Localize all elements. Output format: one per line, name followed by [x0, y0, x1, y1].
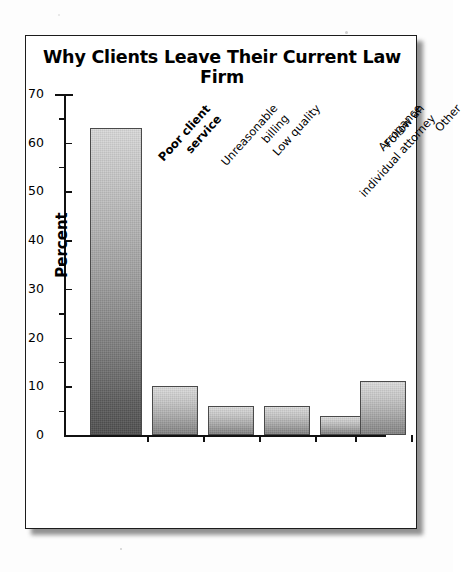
y-tick-label-50: 50 [4, 183, 44, 198]
y-axis-title: Percent [53, 185, 71, 305]
y-minor-tick-15 [59, 362, 64, 363]
chart-title: Why Clients Leave Their Current Law Firm [26, 47, 418, 87]
y-tick-label-30: 30 [4, 281, 44, 296]
bar-low-quality[interactable] [208, 406, 254, 435]
x-axis-line [64, 435, 386, 437]
bar-follow-an-individual-attorney[interactable] [264, 406, 310, 435]
x-tick-5 [355, 435, 357, 442]
y-minor-tick-65 [59, 118, 64, 119]
bar-poor-client-service[interactable] [90, 128, 142, 435]
y-tick-label-20: 20 [4, 330, 44, 345]
x-tick-4 [315, 435, 317, 442]
plot-area: 70 60 50 40 30 20 10 0 Percent [64, 94, 386, 435]
x-label-poor-client-service: Poor client service [155, 102, 225, 175]
y-tick-label-0: 0 [4, 427, 44, 442]
y-tick-10 [64, 386, 72, 388]
y-axis-top-cap [64, 94, 73, 96]
chart-figure-frame: Why Clients Leave Their Current Law Firm… [25, 35, 417, 529]
y-minor-tick-55 [59, 167, 64, 168]
bar-unreasonable-billing[interactable] [152, 386, 198, 435]
y-tick-label-10: 10 [4, 378, 44, 393]
x-tick-3 [259, 435, 261, 442]
bar-other-visible[interactable] [360, 381, 406, 435]
y-tick-60 [64, 143, 72, 145]
y-minor-tick-25 [59, 313, 64, 314]
y-tick-label-60: 60 [4, 135, 44, 150]
y-minor-tick-5 [59, 411, 64, 412]
y-tick-20 [64, 338, 72, 340]
x-tick-6 [411, 435, 413, 442]
y-tick-label-70: 70 [4, 86, 44, 101]
y-tick-70 [55, 94, 64, 96]
x-tick-2 [203, 435, 205, 442]
x-tick-1 [147, 435, 149, 442]
y-tick-label-40: 40 [4, 232, 44, 247]
